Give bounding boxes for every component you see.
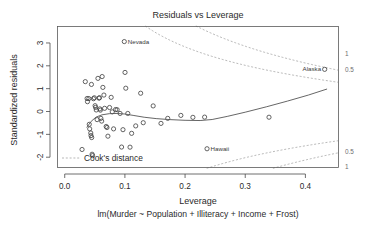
data-point-alaska: [323, 67, 327, 71]
chart-canvas: Residuals vs Leverage Standardized resid…: [0, 0, 370, 226]
cooks-contour-1-negative: [273, 153, 338, 168]
contour-level-label: 0.5: [345, 148, 354, 155]
data-point: [109, 95, 113, 99]
data-point: [102, 93, 106, 97]
data-point: [191, 115, 195, 119]
data-point: [88, 127, 92, 131]
x-axis-label: Leverage: [179, 196, 217, 206]
model-formula-label: lm(Murder ~ Population + Illiteracy + In…: [97, 209, 298, 219]
plot-frame: [58, 27, 339, 168]
y-tick-label: 1: [36, 86, 45, 91]
data-point: [128, 145, 132, 149]
y-tick-label: -2: [36, 153, 45, 161]
data-point: [106, 134, 110, 138]
loess-trend-line: [87, 89, 327, 128]
contour-level-label: 1: [345, 163, 349, 170]
y-tick-label: 3: [36, 40, 45, 45]
data-point: [83, 80, 87, 84]
loess-smoother-path: [87, 89, 327, 128]
cooks-contour-0.5-positive: [145, 26, 338, 82]
data-point-hawaii: [205, 147, 209, 151]
cooks-contour-1-positive: [196, 26, 338, 70]
contour-level-label: 0.5: [345, 66, 354, 73]
data-point: [159, 121, 163, 125]
data-point: [267, 115, 271, 119]
data-point: [103, 106, 107, 110]
point-label-alaska: Alaska: [303, 65, 322, 72]
x-tick-label: 0.3: [240, 182, 252, 191]
x-tick-label: 0.4: [300, 182, 312, 191]
y-axis-label: Standardized residuals: [9, 54, 19, 146]
cooks-distance-contours: [145, 26, 338, 168]
data-points-layer: [80, 39, 327, 157]
cooks-distance-legend: Cook's distance: [62, 153, 143, 163]
data-point: [119, 145, 123, 149]
data-point: [130, 131, 134, 135]
y-tick-label: 2: [36, 63, 45, 68]
x-tick-label: 0.0: [59, 182, 71, 191]
point-label-hawaii: Hawaii: [211, 145, 230, 152]
data-point: [100, 119, 104, 123]
data-point: [101, 85, 105, 89]
data-point: [100, 74, 104, 78]
data-point: [89, 82, 93, 86]
data-point-nevada: [122, 39, 126, 43]
y-axis: 3210-1-2: [36, 40, 50, 161]
data-point: [123, 70, 127, 74]
legend-label-cooks-distance: Cook's distance: [84, 153, 143, 163]
data-point: [121, 128, 125, 132]
data-point: [80, 147, 84, 151]
data-point: [141, 121, 145, 125]
data-point: [107, 105, 111, 109]
contour-level-labels: 10.50.51: [345, 50, 354, 171]
data-point: [139, 91, 143, 95]
residuals-vs-leverage-plot: Residuals vs Leverage Standardized resid…: [0, 0, 370, 226]
data-point: [111, 127, 115, 131]
y-tick-label: -1: [36, 130, 45, 138]
x-tick-label: 0.2: [179, 182, 191, 191]
point-annotations-layer: NevadaHawaiiAlaska: [128, 38, 322, 152]
chart-title: Residuals vs Leverage: [152, 10, 243, 20]
contour-level-label: 1: [345, 50, 349, 57]
point-label-nevada: Nevada: [128, 38, 150, 45]
data-point: [99, 116, 103, 120]
y-tick-label: 0: [36, 109, 45, 114]
x-tick-label: 0.1: [119, 182, 131, 191]
data-point: [96, 76, 100, 80]
data-point: [151, 104, 155, 108]
data-point: [124, 86, 128, 90]
data-point: [134, 124, 138, 128]
x-axis: 0.00.10.20.30.4: [59, 174, 312, 191]
data-point: [203, 115, 207, 119]
data-point: [179, 113, 183, 117]
